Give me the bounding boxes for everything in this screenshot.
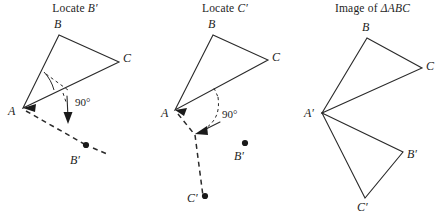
triangle-abc	[175, 35, 268, 110]
label-a: A	[160, 106, 169, 120]
dashed-ray-a-to-c-prime	[178, 114, 203, 196]
geometry-figure: Locate B′ A B C B′ 90°	[0, 0, 445, 213]
label-c-prime: C′	[187, 191, 198, 205]
panel-1-drawing: A B C B′ 90°	[0, 0, 150, 213]
label-angle-90: 90°	[75, 96, 90, 108]
triangle-a-b-c-prime-image	[322, 113, 403, 198]
point-b-prime-dot	[242, 140, 248, 146]
label-b-prime: B′	[70, 153, 80, 167]
label-c-prime: C′	[357, 200, 368, 213]
rotation-arrow-head	[64, 112, 73, 124]
label-b: B	[208, 17, 216, 31]
label-b: B	[54, 17, 62, 31]
rotation-arc	[44, 72, 54, 90]
panel-locate-c-prime: Locate C′ A B C B′ C′ 90°	[150, 0, 300, 213]
dashed-tail-past-b-prime	[93, 148, 107, 154]
label-c: C	[426, 59, 435, 73]
label-b-prime: B′	[407, 147, 417, 161]
label-a: A	[7, 104, 16, 118]
label-a-prime: A′	[303, 106, 314, 120]
label-c: C	[123, 51, 132, 65]
angle-marker-dashed	[214, 88, 218, 97]
rotation-arrow-head	[195, 126, 208, 135]
angle-marker-dashed	[63, 93, 66, 102]
rotation-arc-dashed	[203, 97, 218, 130]
label-b: B	[362, 20, 370, 34]
label-b-prime: B′	[234, 149, 244, 163]
panel-3-drawing: A′ B C B′ C′	[300, 0, 445, 213]
triangle-abc-original	[322, 38, 422, 113]
label-angle-90: 90°	[222, 108, 237, 120]
panel-image-of-triangle-abc: Image of ΔABC A′ B C B′ C′	[300, 0, 445, 213]
panel-2-drawing: A B C B′ C′ 90°	[150, 0, 300, 213]
point-b-prime-dot	[83, 142, 89, 148]
dashed-ray-a-to-b-prime	[26, 111, 86, 145]
panel-locate-b-prime: Locate B′ A B C B′ 90°	[0, 0, 150, 213]
triangle-abc	[23, 35, 119, 108]
label-c: C	[272, 50, 281, 64]
point-c-prime-dot	[202, 193, 208, 199]
